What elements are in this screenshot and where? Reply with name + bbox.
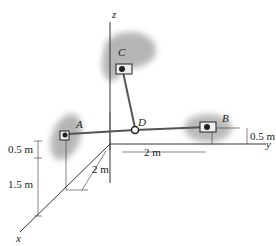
dim-a-bottom: 1.5 m [8,178,33,190]
point-d-label: D [138,116,146,128]
dim-y-offset: 2 m [144,146,161,158]
z-axis-label: z [112,8,116,20]
dim-a-top: 0.5 m [8,143,33,155]
x-axis-label: x [16,232,21,244]
point-c-label: C [118,46,125,58]
point-b-label: B [222,112,229,124]
dim-x-offset: 2 m [92,163,109,175]
dim-b-height: 0.5 m [250,130,275,142]
diagram-canvas: z y x C A B D 0.5 m 1.5 m 2 m 2 m 0.5 m [0,0,276,246]
point-a-label: A [76,118,83,130]
